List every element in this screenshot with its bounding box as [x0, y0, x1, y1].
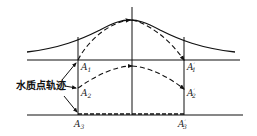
label-a2-prime: A′2 [186, 87, 196, 99]
label-a3: A3 [73, 119, 85, 130]
label-a1-prime: A′1 [186, 61, 196, 73]
trajectory-a1-prime [132, 20, 184, 60]
water-particle-trajectory-diagram: 水质点轨迹 A1 A2 A3 A′1 A′2 A′3 [0, 0, 257, 136]
pointer-arrow-a3 [64, 96, 77, 112]
caption-water-particle-trajectory: 水质点轨迹 [15, 79, 66, 91]
pointer-arrow-a2 [65, 86, 76, 88]
trajectory-a2-prime [132, 66, 184, 89]
wave-crest-profile [27, 20, 235, 52]
label-a1: A1 [80, 62, 91, 73]
trajectory-a1 [78, 20, 130, 60]
label-a3-prime: A′3 [177, 118, 187, 130]
pointer-arrow-a1 [62, 63, 76, 80]
label-a2: A2 [80, 88, 92, 99]
